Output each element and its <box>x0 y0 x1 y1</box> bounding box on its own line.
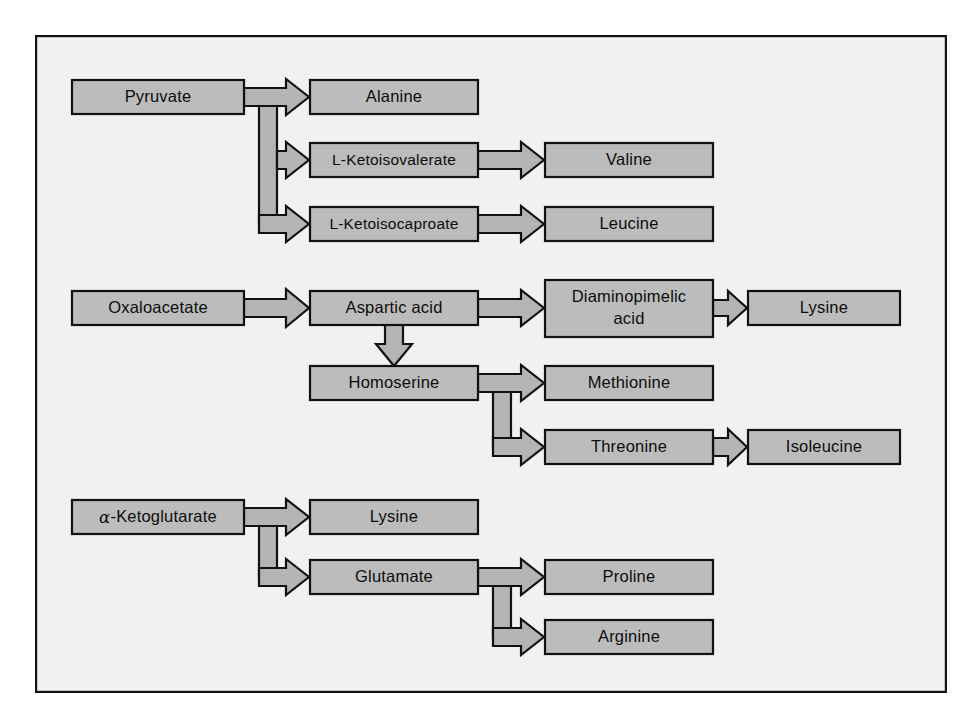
node-aspartic-acid[interactable]: Aspartic acid <box>310 291 478 325</box>
node-label-alanine: Alanine <box>366 87 422 105</box>
node-glutamate[interactable]: Glutamate <box>310 560 478 594</box>
node-valine[interactable]: Valine <box>545 143 713 177</box>
alpha-symbol: α <box>99 508 110 527</box>
node-label-isoleucine: Isoleucine <box>786 437 862 455</box>
node-methionine[interactable]: Methionine <box>545 366 713 400</box>
node-label-methionine: Methionine <box>588 373 671 391</box>
node-homoserine[interactable]: Homoserine <box>310 366 478 400</box>
node-label-proline: Proline <box>603 567 656 585</box>
node-diaminopimelic-acid[interactable]: Diaminopimelic acid <box>545 280 713 337</box>
node-label-diaminopimelic-acid-line2: acid <box>613 309 644 327</box>
node-pyruvate[interactable]: Pyruvate <box>72 80 244 114</box>
arrow-pyruvate-trunk <box>259 106 277 224</box>
node-label-oxaloacetate: Oxaloacetate <box>108 298 208 316</box>
node-label-pyruvate: Pyruvate <box>125 87 192 105</box>
node-oxaloacetate[interactable]: Oxaloacetate <box>72 291 244 325</box>
node-lysine-aspartate-branch[interactable]: Lysine <box>748 291 900 325</box>
node-threonine[interactable]: Threonine <box>545 430 713 464</box>
node-label-leucine: Leucine <box>599 214 658 232</box>
node-isoleucine[interactable]: Isoleucine <box>748 430 900 464</box>
node-label-valine: Valine <box>606 150 652 168</box>
node-label-aspartic-acid: Aspartic acid <box>345 298 442 316</box>
node-label-threonine: Threonine <box>591 437 667 455</box>
node-l-ketoisocaproate[interactable]: L-Ketoisocaproate <box>310 207 478 241</box>
pathway-canvas: Pyruvate Alanine L-Ketoisovalerate Valin… <box>0 0 977 724</box>
node-label-lysine-aspartate-branch: Lysine <box>800 298 848 316</box>
node-proline[interactable]: Proline <box>545 560 713 594</box>
diagram-frame <box>36 36 946 692</box>
node-l-ketoisovalerate[interactable]: L-Ketoisovalerate <box>310 143 478 177</box>
node-label-l-ketoisocaproate: L-Ketoisocaproate <box>329 215 458 232</box>
pathway-diagram: Pyruvate Alanine L-Ketoisovalerate Valin… <box>0 0 977 724</box>
node-label-l-ketoisovalerate: L-Ketoisovalerate <box>332 151 456 168</box>
node-label-homoserine: Homoserine <box>349 373 440 391</box>
node-lysine-glutamate-branch[interactable]: Lysine <box>310 500 478 534</box>
node-leucine[interactable]: Leucine <box>545 207 713 241</box>
node-alanine[interactable]: Alanine <box>310 80 478 114</box>
node-alpha-ketoglutarate[interactable]: α-Ketoglutarate <box>72 500 244 534</box>
node-label-alpha-ketoglutarate: α-Ketoglutarate <box>99 507 217 526</box>
node-arginine[interactable]: Arginine <box>545 620 713 654</box>
node-label-arginine: Arginine <box>598 627 660 645</box>
node-label-glutamate: Glutamate <box>355 567 433 585</box>
node-label-diaminopimelic-acid-line1: Diaminopimelic <box>572 287 687 305</box>
node-label-lysine-glutamate-branch: Lysine <box>370 507 418 525</box>
alpha-ketoglutarate-rest: -Ketoglutarate <box>110 507 216 525</box>
